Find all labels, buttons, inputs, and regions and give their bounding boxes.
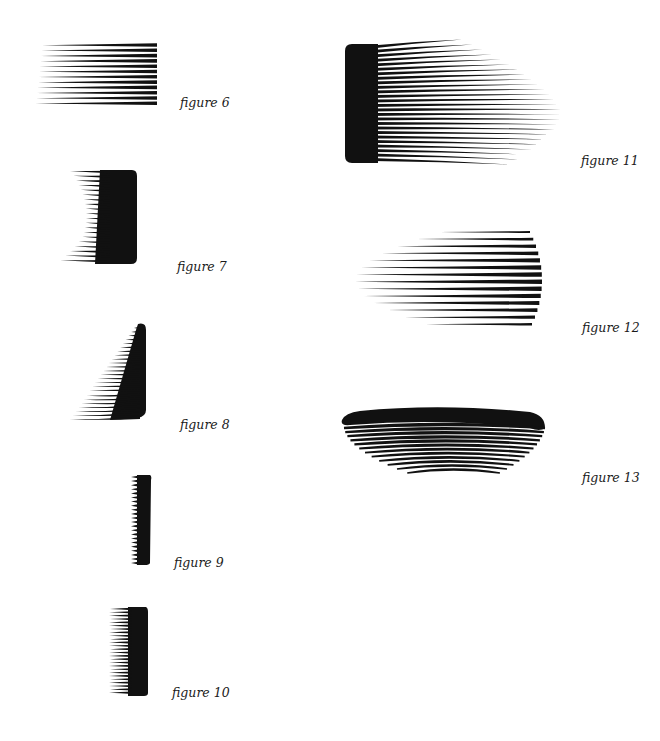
figure-7-comb <box>60 170 137 264</box>
figure-13-comb <box>342 407 545 473</box>
figure-7-caption: figure 7 <box>177 259 227 274</box>
figure-9-caption: figure 9 <box>174 555 224 570</box>
figure-9-comb <box>131 475 151 565</box>
figure-8-caption: figure 8 <box>180 417 230 432</box>
figure-11-comb <box>345 40 562 165</box>
figure-13-caption: figure 13 <box>582 470 640 485</box>
figure-12-comb <box>355 231 542 326</box>
figure-6-comb <box>35 43 157 105</box>
figure-10-caption: figure 10 <box>172 685 230 700</box>
figure-6-caption: figure 6 <box>180 95 230 110</box>
comb-illustrations <box>0 0 660 741</box>
figure-11-caption: figure 11 <box>581 153 639 168</box>
figure-12-caption: figure 12 <box>582 320 640 335</box>
figure-8-comb <box>70 324 146 420</box>
figure-10-comb <box>109 607 148 696</box>
